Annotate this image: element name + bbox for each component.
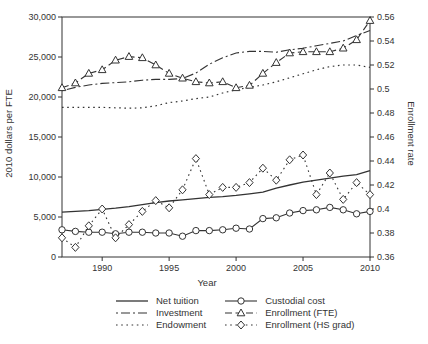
legend-item-investment: Investment (115, 307, 206, 318)
series-enrollment-hs-grad-marker (219, 183, 226, 191)
series-enrollment-fte-marker (272, 59, 280, 66)
series-enrollment-hs-grad-marker (166, 204, 173, 212)
legend-item-custodial-cost: Custodial cost (224, 295, 354, 306)
legend-label: Custodial cost (265, 295, 325, 306)
series-net-tuition-line (62, 171, 370, 213)
right-tick-label: 0.52 (377, 60, 395, 70)
right-tick-label: 0.4 (377, 204, 390, 214)
legend-label: Endowment (156, 319, 206, 330)
legend-item-enrollment-hs-grad: Enrollment (HS grad) (224, 319, 354, 330)
legend-symbol-enrollment-hs-grad (224, 320, 258, 330)
left-tick-label: 25,000 (28, 52, 56, 62)
left-tick-label: 5,000 (33, 212, 56, 222)
series-enrollment-fte-marker (366, 17, 374, 24)
x-tick-label: 2010 (360, 263, 380, 273)
series-enrollment-hs-grad-marker (85, 222, 92, 230)
legend: Net tuitionInvestmentEndowmentCustodial … (115, 295, 354, 330)
series-custodial-cost-marker (233, 225, 239, 231)
x-tick-label: 2000 (226, 263, 246, 273)
left-tick-label: 20,000 (28, 92, 56, 102)
series-enrollment-hs-grad-marker (179, 186, 186, 194)
diamond-marker-icon (238, 321, 245, 329)
series-enrollment-fte-marker (219, 78, 227, 85)
series-enrollment-hs-grad-marker (72, 243, 79, 251)
series-enrollment-hs-grad-marker (139, 207, 146, 215)
plot-area: 05,00010,00015,00020,00025,00030,0000.36… (0, 0, 428, 344)
legend-item-net-tuition: Net tuition (115, 295, 206, 306)
series-enrollment-hs-grad-marker (99, 205, 106, 213)
series-custodial-cost-marker (286, 210, 292, 216)
series-custodial-cost-marker (340, 207, 346, 213)
legend-column: Custodial costEnrollment (FTE)Enrollment… (224, 295, 354, 330)
series-custodial-cost-marker (166, 230, 172, 236)
series-enrollment-fte-line (62, 21, 370, 88)
series-custodial-cost-marker (313, 207, 319, 213)
series-custodial-cost-marker (367, 208, 373, 214)
legend-symbol-endowment (115, 320, 149, 330)
left-tick-label: 30,000 (28, 12, 56, 22)
right-tick-label: 0.5 (377, 84, 390, 94)
series-custodial-cost-marker (193, 227, 199, 233)
series-custodial-cost-marker (353, 211, 359, 217)
legend-item-endowment: Endowment (115, 319, 206, 330)
series-enrollment-fte-marker (246, 81, 254, 88)
left-axis-title: 2010 dollars per FTE (3, 64, 14, 204)
x-tick-label: 1990 (92, 263, 112, 273)
series-enrollment-hs-grad-marker (286, 156, 293, 164)
series-enrollment-hs-grad-line (62, 155, 370, 247)
series-enrollment-fte-marker (152, 61, 160, 68)
series-enrollment-hs-grad-marker (192, 155, 199, 163)
series-custodial-cost-marker (59, 227, 65, 233)
legend-symbol-net-tuition (115, 296, 149, 306)
series-custodial-cost-marker (273, 215, 279, 221)
series-custodial-cost-marker (246, 226, 252, 232)
legend-label: Enrollment (HS grad) (265, 319, 354, 330)
legend-symbol-investment (115, 308, 149, 318)
series-enrollment-hs-grad-marker (58, 234, 65, 242)
right-tick-label: 0.54 (377, 36, 395, 46)
circle-marker-icon (238, 297, 244, 303)
series-custodial-cost-marker (206, 227, 212, 233)
x-tick-label: 1995 (159, 263, 179, 273)
right-tick-label: 0.36 (377, 252, 395, 262)
series-enrollment-fte-marker (165, 69, 173, 76)
legend-label: Net tuition (156, 295, 199, 306)
right-tick-label: 0.44 (377, 156, 395, 166)
series-custodial-cost-marker (153, 230, 159, 236)
left-tick-label: 10,000 (28, 172, 56, 182)
series-enrollment-hs-grad-marker (299, 151, 306, 159)
series-investment-line (62, 31, 370, 91)
series-enrollment-fte-marker (98, 66, 106, 73)
series-enrollment-fte-marker (259, 69, 267, 76)
x-tick-label: 2005 (293, 263, 313, 273)
x-axis-title: Year (62, 277, 352, 288)
legend-label: Investment (156, 307, 202, 318)
chart-figure: 05,00010,00015,00020,00025,00030,0000.36… (0, 0, 428, 344)
series-custodial-cost-line (62, 207, 370, 236)
legend-symbol-custodial-cost (224, 296, 258, 306)
series-custodial-cost-marker (327, 204, 333, 210)
triangle-marker-icon (237, 309, 245, 316)
series-enrollment-hs-grad-marker (353, 179, 360, 187)
series-enrollment-hs-grad-marker (313, 191, 320, 199)
legend-item-enrollment-fte: Enrollment (FTE) (224, 307, 354, 318)
legend-label: Enrollment (FTE) (265, 307, 337, 318)
legend-symbol-enrollment-fte (224, 308, 258, 318)
left-tick-label: 15,000 (28, 132, 56, 142)
series-custodial-cost-marker (179, 233, 185, 239)
right-axis-title: Enrollment rate (406, 64, 417, 204)
series-enrollment-fte-marker (313, 48, 321, 55)
right-tick-label: 0.56 (377, 12, 395, 22)
series-enrollment-fte-marker (125, 53, 133, 60)
right-tick-label: 0.48 (377, 108, 395, 118)
series-custodial-cost-marker (219, 227, 225, 233)
series-enrollment-fte-marker (72, 79, 80, 86)
right-tick-label: 0.38 (377, 228, 395, 238)
series-endowment-line (62, 65, 370, 108)
series-enrollment-fte-marker (339, 44, 347, 51)
plot-frame (62, 17, 370, 257)
series-custodial-cost-marker (260, 215, 266, 221)
series-custodial-cost-marker (139, 229, 145, 235)
series-enrollment-hs-grad-marker (246, 179, 253, 187)
series-custodial-cost-marker (72, 228, 78, 234)
